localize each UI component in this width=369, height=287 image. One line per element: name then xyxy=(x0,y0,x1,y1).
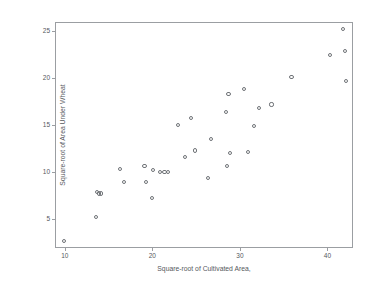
x-axis-tick-mark xyxy=(240,247,241,251)
data-point xyxy=(62,239,66,243)
y-axis-tick-label: 10 xyxy=(43,169,50,176)
y-axis-title: Square-root of Area Under Wheat xyxy=(60,84,67,185)
y-axis-tick-label: 20 xyxy=(43,75,50,82)
data-point xyxy=(122,180,126,184)
data-point xyxy=(193,148,197,152)
data-point xyxy=(150,196,154,200)
data-point xyxy=(341,27,345,31)
data-point xyxy=(226,92,230,96)
data-point xyxy=(224,110,228,114)
data-point xyxy=(151,168,155,172)
x-axis-tick-mark xyxy=(152,247,153,251)
data-point xyxy=(176,123,180,127)
data-point xyxy=(269,102,273,106)
x-axis-tick-label: 20 xyxy=(149,253,156,260)
data-point xyxy=(343,49,347,53)
y-axis-tick-mark xyxy=(52,78,56,79)
data-point xyxy=(99,191,103,195)
data-point xyxy=(246,150,250,154)
x-axis-tick-label: 40 xyxy=(324,253,331,260)
data-point xyxy=(209,137,213,141)
data-point xyxy=(142,164,146,168)
y-axis-tick-mark xyxy=(52,219,56,220)
scatter-plot-figure: 51015202510203040 Square-root of Cultiva… xyxy=(0,0,369,287)
plot-frame: 51015202510203040 xyxy=(55,22,353,248)
data-point xyxy=(257,106,261,110)
data-point xyxy=(206,176,210,180)
data-point xyxy=(183,155,187,159)
data-point xyxy=(189,116,193,120)
data-point xyxy=(228,151,232,155)
y-axis-tick-mark xyxy=(52,31,56,32)
data-point xyxy=(252,124,256,128)
y-axis-tick-mark xyxy=(52,125,56,126)
y-axis-tick-label: 5 xyxy=(46,216,50,223)
x-axis-tick-label: 10 xyxy=(61,253,68,260)
x-axis-tick-mark xyxy=(327,247,328,251)
data-point xyxy=(166,170,170,174)
x-axis-title: Square-root of Cultivated Area, xyxy=(55,266,353,273)
y-axis-tick-mark xyxy=(52,172,56,173)
data-point xyxy=(94,215,98,219)
x-axis-tick-label: 30 xyxy=(236,253,243,260)
plot-area xyxy=(56,23,352,247)
y-axis-tick-label: 15 xyxy=(43,122,50,129)
data-point xyxy=(144,180,148,184)
y-axis-tick-label: 25 xyxy=(43,28,50,35)
data-point xyxy=(118,167,122,171)
data-point xyxy=(328,53,332,57)
data-point xyxy=(225,164,229,168)
data-point xyxy=(289,75,293,79)
data-point xyxy=(242,87,246,91)
x-axis-tick-mark xyxy=(65,247,66,251)
data-point xyxy=(344,79,348,83)
